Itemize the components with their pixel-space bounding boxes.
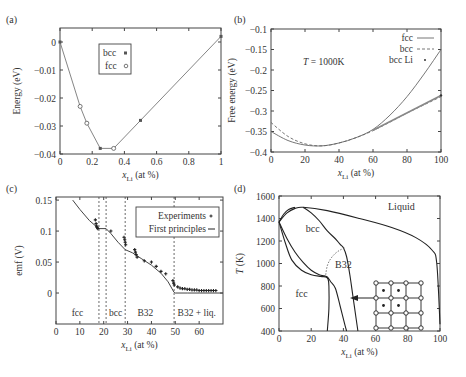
panel-label: (a) xyxy=(6,14,17,26)
x-tick-label: 0 xyxy=(269,155,274,165)
plot-frame xyxy=(271,29,441,152)
y-tick-label: 0 xyxy=(51,38,56,48)
legend-label-experiments: Experiments xyxy=(158,211,206,221)
b32-structure-inset xyxy=(350,281,423,330)
x-tick-label: 100 xyxy=(434,155,449,165)
plot-frame xyxy=(279,196,440,331)
lattice-site-open xyxy=(419,296,423,300)
bcc-marker xyxy=(99,147,102,150)
phase-region-label: bcc xyxy=(306,223,320,234)
lattice-site-open xyxy=(404,296,408,300)
lattice-site-open xyxy=(404,281,408,285)
lattice-site-open xyxy=(374,281,378,285)
y-tick-label: 1400 xyxy=(256,214,275,224)
y-axis-label: Energy (eV) xyxy=(12,67,23,114)
x-tick-label: 0 xyxy=(58,157,63,167)
convex-hull-line xyxy=(60,36,221,148)
x-tick-label: 0.4 xyxy=(118,157,130,167)
fcc-marker xyxy=(78,104,82,108)
legend-label-first-principles: First principles xyxy=(149,224,207,234)
lattice-site-open xyxy=(374,326,378,330)
experiment-marker xyxy=(164,272,167,275)
experiment-marker xyxy=(94,218,97,221)
figure: 00.20.40.60.810−0.01−0.02−0.03−0.04xLi (… xyxy=(0,0,466,377)
x-tick-label: 0.6 xyxy=(151,157,163,167)
common-tangent-line xyxy=(373,95,441,130)
x-tick-label: 10 xyxy=(75,327,85,337)
legend: fccbccbcc Li xyxy=(389,33,434,65)
panel-label: (d) xyxy=(234,183,246,195)
legend-label-fcc: fcc xyxy=(105,61,117,71)
x-tick-label: 20 xyxy=(300,155,310,165)
phase-region-label: B32 xyxy=(335,259,352,270)
experiment-marker xyxy=(155,265,158,268)
y-tick-label: 1200 xyxy=(256,237,275,247)
lattice-site-open xyxy=(374,311,378,315)
bcc-marker xyxy=(220,35,223,38)
lattice-site-filled xyxy=(397,289,400,292)
y-tick-label: −0.2 xyxy=(250,66,267,76)
lattice-site-filled xyxy=(397,304,400,307)
panel-b-free-energy-chart: 020406080100−0.1−0.15−0.2−0.25−0.3−0.35−… xyxy=(227,14,448,181)
x-tick-label: 40 xyxy=(147,327,157,337)
panel-d-phase-diagram: 0204060801004006008001000120014001600xLi… xyxy=(234,183,447,360)
phase-region-label: Liquid xyxy=(388,201,415,212)
y-axis-label: Free energy (eV) xyxy=(227,58,238,123)
y-tick-label: 0.1 xyxy=(40,227,52,237)
panel-label: (b) xyxy=(234,14,246,26)
experiment-marker xyxy=(150,260,153,263)
y-tick-label: 400 xyxy=(261,327,276,337)
phase-region-label: B32 xyxy=(138,308,154,318)
x-tick-label: 0.2 xyxy=(86,157,98,167)
y-tick-label: −0.3 xyxy=(250,107,267,117)
y-tick-label: 1000 xyxy=(256,259,275,269)
x-tick-label: 80 xyxy=(402,155,412,165)
lattice-site-open xyxy=(404,326,408,330)
fcc-bcc-upper-curve xyxy=(279,222,347,331)
x-tick-label: 60 xyxy=(371,334,381,344)
y-tick-label: 0 xyxy=(47,289,52,299)
y-tick-label: −0.25 xyxy=(245,86,267,96)
bcc-marker xyxy=(139,119,142,122)
x-tick-label: 60 xyxy=(194,327,204,337)
phase-region-label: fcc xyxy=(72,308,84,318)
experiment-marker xyxy=(124,243,127,246)
legend-fcc-marker xyxy=(124,64,128,68)
temperature-annotation: T = 1000K xyxy=(303,57,344,67)
y-tick-label: −0.01 xyxy=(34,66,56,76)
x-axis-label: xLi (at %) xyxy=(340,347,377,360)
x-tick-label: 60 xyxy=(368,155,378,165)
y-axis-label: emf (V) xyxy=(14,245,25,275)
fcc-curve xyxy=(271,50,441,146)
y-tick-label: 600 xyxy=(261,304,276,314)
lattice-site-open xyxy=(404,311,408,315)
lattice-site-open xyxy=(419,311,423,315)
lattice-site-open xyxy=(389,281,393,285)
bcc-marker xyxy=(59,41,62,44)
x-tick-label: 50 xyxy=(171,327,181,337)
legend-label-bcc: bcc xyxy=(400,44,413,54)
y-tick-label: −0.15 xyxy=(245,45,267,55)
x-tick-label: 20 xyxy=(306,334,316,344)
bcc-curve xyxy=(271,97,441,146)
x-tick-label: 40 xyxy=(339,334,349,344)
legend: ExperimentsFirst principles xyxy=(136,207,219,237)
legend: bccfcc xyxy=(99,44,131,74)
liquidus-curve xyxy=(279,207,440,324)
y-tick-label: −0.1 xyxy=(250,25,267,35)
x-tick-label: 40 xyxy=(334,155,344,165)
y-tick-label: 800 xyxy=(261,282,276,292)
legend-bcc-marker xyxy=(124,52,127,55)
panel-a-energy-chart: 00.20.40.60.810−0.01−0.02−0.03−0.04xLi (… xyxy=(6,14,224,183)
x-axis-label: xLi (at %) xyxy=(120,340,157,353)
x-tick-label: 0.8 xyxy=(183,157,195,167)
phase-region-label: fcc xyxy=(295,288,308,299)
x-tick-label: 1 xyxy=(219,157,224,167)
x-tick-label: 0 xyxy=(54,327,59,337)
lattice-site-open xyxy=(419,326,423,330)
y-tick-label: 0.15 xyxy=(35,196,52,206)
x-tick-label: 100 xyxy=(433,334,448,344)
lattice-site-filled xyxy=(382,304,385,307)
lattice-site-open xyxy=(389,296,393,300)
x-tick-label: 30 xyxy=(123,327,133,337)
